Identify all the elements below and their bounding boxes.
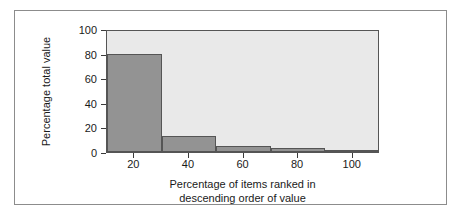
plot-area	[106, 30, 379, 153]
y-axis-tick-label: 0	[91, 147, 97, 159]
x-axis-tick-label: 100	[343, 158, 361, 170]
bar	[325, 150, 379, 152]
y-axis-tick-label: 40	[85, 98, 97, 110]
y-axis-tick-label: 20	[85, 122, 97, 134]
bar	[216, 146, 271, 152]
x-axis-tick-label: 60	[236, 158, 248, 170]
x-axis-tick-label: 80	[291, 158, 303, 170]
pareto-bar-chart: Percentage total value 020406080100 2040…	[15, 11, 448, 206]
x-axis-title: Percentage of items ranked in descending…	[106, 177, 379, 205]
x-axis-tick-labels: 20406080100	[106, 158, 379, 172]
y-axis-tick-label: 80	[85, 49, 97, 61]
x-axis-tick-label: 20	[127, 158, 139, 170]
y-axis-tick-mark	[101, 153, 106, 154]
bar	[271, 148, 326, 152]
bar	[162, 136, 217, 152]
figure-frame: Percentage total value 020406080100 2040…	[14, 10, 447, 205]
y-axis-title: Percentage total value	[39, 30, 53, 153]
bar	[107, 54, 162, 152]
y-axis-tick-label: 100	[79, 24, 97, 36]
x-axis-title-line-1: Percentage of items ranked in	[106, 177, 379, 191]
x-axis-tick-label: 40	[182, 158, 194, 170]
y-axis-tick-label: 60	[85, 73, 97, 85]
x-axis-title-line-2: descending order of value	[106, 191, 379, 205]
